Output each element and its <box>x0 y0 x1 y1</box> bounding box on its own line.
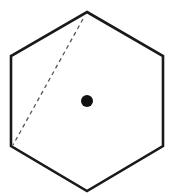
hexagon-diagram <box>0 0 180 196</box>
center-dot <box>81 95 93 107</box>
